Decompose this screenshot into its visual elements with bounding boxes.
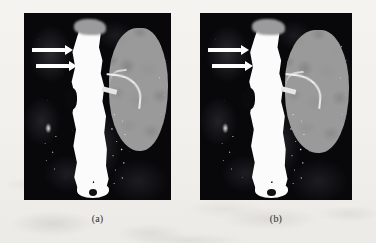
- left-paraspinal-speckle-b: [214, 121, 241, 181]
- lateral-specks-b: [337, 39, 352, 136]
- caption-a: (a): [24, 213, 171, 224]
- panel-b[interactable]: [200, 13, 352, 200]
- caption-b: (b): [200, 213, 352, 224]
- aorta-top-flare-a: [74, 19, 106, 36]
- aorta-top-flare-b: [252, 19, 285, 36]
- arrow-shaft-b-2: [212, 64, 245, 68]
- aorta-wall-notch-b: [241, 88, 255, 110]
- calcification-cluster-a: [106, 110, 132, 189]
- arrow-head-a-1: [65, 45, 73, 55]
- arrow-shaft-b-1: [208, 48, 241, 52]
- panel-a[interactable]: [24, 13, 171, 200]
- figure-container: (a): [0, 0, 376, 243]
- scan-image-a[interactable]: [24, 13, 171, 200]
- arrow-shaft-a-2: [36, 64, 69, 68]
- calcification-cluster-b: [285, 110, 312, 189]
- left-paraspinal-speckle-a: [37, 121, 63, 181]
- scan-image-b[interactable]: [200, 13, 352, 200]
- arrow-shaft-a-1: [32, 48, 65, 52]
- arrow-head-b-2: [245, 61, 253, 71]
- aorta-wall-notch-a: [64, 88, 77, 110]
- arrow-head-a-2: [69, 61, 77, 71]
- arrow-head-b-1: [241, 45, 249, 55]
- lateral-specks-a: [156, 39, 171, 136]
